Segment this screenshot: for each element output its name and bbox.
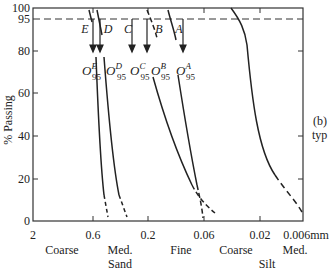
- curve-a: [231, 8, 275, 175]
- svg-text:Med.: Med.: [283, 243, 308, 257]
- curve-a-tail: [275, 175, 302, 212]
- svg-text:D: D: [103, 22, 113, 36]
- y-axis-label: % Passing: [1, 95, 15, 145]
- svg-text:OD95: OD95: [106, 61, 126, 82]
- plot-frame: [33, 8, 303, 221]
- svg-text:OC95: OC95: [130, 61, 150, 82]
- grain-size-chart: 100 95 80 60 40 20 0 % Passing 2 0.6 0.2…: [0, 0, 329, 269]
- svg-text:40: 40: [18, 129, 30, 143]
- side-note-line2: typ: [312, 128, 327, 142]
- svg-text:0.6: 0.6: [86, 228, 101, 242]
- curve-d-tail: [119, 195, 127, 217]
- svg-text:2: 2: [30, 228, 36, 242]
- curve-c-tail: [192, 185, 215, 213]
- svg-text:A: A: [174, 22, 183, 36]
- svg-text:Silt: Silt: [259, 257, 276, 269]
- svg-text:0.02: 0.02: [250, 228, 271, 242]
- curve-c: [153, 77, 192, 185]
- y-ticks: [33, 51, 303, 179]
- svg-text:20: 20: [18, 172, 30, 186]
- svg-text:Coarse: Coarse: [219, 243, 252, 257]
- svg-text:80: 80: [18, 44, 30, 58]
- soil-class-labels: Coarse Med. Sand Fine Coarse Med. Silt: [45, 243, 307, 269]
- svg-text:95: 95: [18, 12, 30, 26]
- curve-e-tail: [104, 195, 108, 217]
- svg-text:0.06: 0.06: [194, 228, 215, 242]
- svg-text:Coarse: Coarse: [45, 243, 78, 257]
- svg-text:OE95: OE95: [82, 61, 101, 82]
- curve-letters: E D C B A: [80, 22, 183, 36]
- curve-e: [89, 10, 104, 195]
- svg-text:Fine: Fine: [170, 243, 191, 257]
- side-note-line1: (b): [313, 114, 327, 128]
- svg-text:60: 60: [18, 86, 30, 100]
- svg-text:0: 0: [24, 214, 30, 228]
- grading-curves: [89, 8, 302, 218]
- svg-text:0.2: 0.2: [141, 228, 156, 242]
- curve-b-tail: [197, 185, 203, 218]
- svg-text:C: C: [124, 22, 133, 36]
- x-tick-labels: 2 0.6 0.2 0.06 0.02 0.006mm: [30, 228, 329, 242]
- svg-text:0.006mm: 0.006mm: [283, 228, 329, 242]
- svg-text:E: E: [80, 22, 89, 36]
- svg-text:Med.: Med.: [108, 243, 133, 257]
- svg-text:Sand: Sand: [108, 257, 132, 269]
- svg-text:B: B: [155, 22, 163, 36]
- curve-b: [178, 75, 197, 185]
